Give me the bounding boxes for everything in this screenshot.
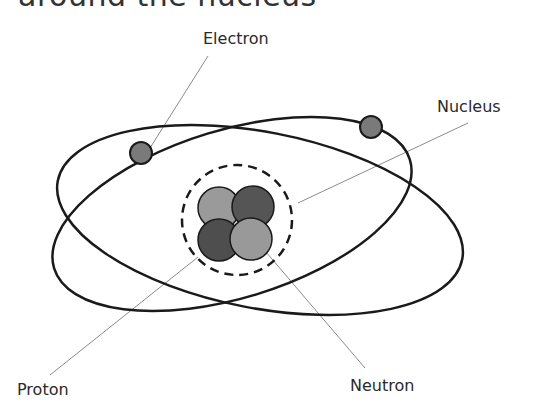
proton-label: Proton xyxy=(17,380,69,399)
electron-leader-line xyxy=(150,56,208,148)
electron-right xyxy=(360,116,382,138)
nucleus-label: Nucleus xyxy=(437,97,501,116)
neutron-leader-line xyxy=(260,245,365,368)
nucleus-leader-line xyxy=(298,123,468,203)
electron-label: Electron xyxy=(203,29,269,48)
electron-left xyxy=(130,142,152,164)
neutron-label: Neutron xyxy=(350,376,414,395)
nucleus xyxy=(198,186,274,261)
proton-bottom-right xyxy=(230,218,272,260)
proton-leader-line xyxy=(50,257,198,375)
atom-diagram xyxy=(0,0,554,417)
